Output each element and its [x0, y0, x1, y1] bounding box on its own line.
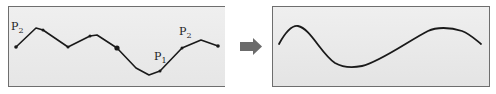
arrow-right-icon — [240, 38, 262, 55]
figure-graphics — [0, 0, 496, 94]
label-p2: P2 — [179, 26, 192, 40]
smoothed-curve — [279, 26, 481, 67]
label-p1: P1 — [154, 51, 167, 65]
label-start-point: P2 — [11, 21, 24, 35]
